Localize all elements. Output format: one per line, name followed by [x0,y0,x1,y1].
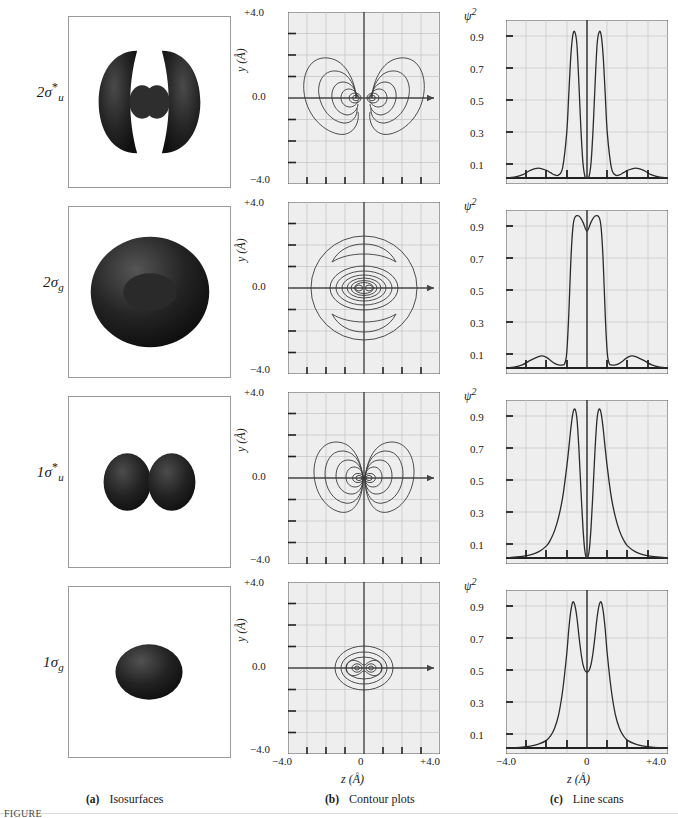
linescan-y-tick: 0.1 [470,349,484,361]
linescan-plot-1sigma-u-star [506,400,668,564]
linescan-y-tick: 0.5 [470,475,484,487]
orbital-row: 2σg y (Å) +4.0 0.0 −4.0 [0,198,678,388]
linescan-y-tick: 0.5 [470,285,484,297]
contour-x-tick-left: −4.0 [272,755,292,767]
linescan-y-axis-label: ψ2 [464,6,476,24]
linescan-panel: ψ2 0.9 0.7 0.5 0.3 0.1 [462,10,676,196]
linescan-y-tick: 0.9 [470,221,484,233]
contour-panel: y (Å) +4.0 0.0 −4.0 [236,390,446,576]
linescan-y-tick: 0.7 [470,443,484,455]
linescan-plot-2sigma-u-star [506,20,668,184]
footer-divider [0,813,678,814]
contour-panel: y (Å) +4.0 0.0 −4.0 [236,10,446,196]
linescan-y-tick: 0.3 [470,127,484,139]
isosurface-2sigma-u-star-icon [69,17,230,187]
linescan-y-tick: 0.9 [470,601,484,613]
linescan-plot-2sigma-g [506,210,668,374]
linescan-y-tick: 0.7 [470,253,484,265]
linescan-panel: ψ2 0.9 0.7 0.5 0.3 0.1 [462,390,676,576]
linescan-y-axis-label: ψ2 [464,196,476,214]
contour-y-axis-label: y (Å) [234,238,249,262]
contour-y-tick-bottom: −4.0 [250,173,270,185]
linescan-y-tick: 0.7 [470,63,484,75]
caption-contour-plots: (b)Contour plots [325,792,415,807]
orbital-row: 2σ*u y (Å) +4.0 0.0 [0,8,678,198]
isosurface-panel [68,396,231,568]
caption-isosurfaces: (a)Isosurfaces [86,792,163,807]
linescan-x-axis-label: z (Å) [567,772,590,787]
contour-panel: y (Å) +4.0 0.0 −4.0 [236,200,446,386]
linescan-x-tick-mid: 0 [584,755,590,767]
orbital-row: 1σ*u y (Å) +4.0 0.0 −4.0 [0,388,678,578]
contour-y-tick-top: +4.0 [244,576,264,588]
linescan-x-tick-left: −4.0 [496,755,516,767]
linescan-y-tick: 0.1 [470,729,484,741]
isosurface-2sigma-g-icon [69,207,230,377]
contour-y-axis-label: y (Å) [234,428,249,452]
contour-y-tick-bottom: −4.0 [250,553,270,565]
contour-plot-2sigma-g [288,202,440,374]
contour-plot-1sigma-g [288,582,440,754]
orbital-label: 1σg [6,650,64,673]
contour-y-tick-top: +4.0 [244,386,264,398]
linescan-y-tick: 0.7 [470,633,484,645]
contour-x-axis-label: z (Å) [341,772,364,787]
figure-footnote: FIGURE [4,808,42,818]
orbital-label: 1σ*u [6,460,64,483]
contour-y-axis-label: y (Å) [234,618,249,642]
linescan-y-axis-label: ψ2 [464,386,476,404]
contour-y-tick-mid: 0.0 [252,470,266,482]
isosurface-1sigma-g-icon [69,587,230,757]
contour-y-tick-bottom: −4.0 [250,363,270,375]
contour-y-tick-top: +4.0 [244,196,264,208]
contour-y-tick-mid: 0.0 [252,280,266,292]
linescan-plot-1sigma-g [506,590,668,754]
orbital-label: 2σg [6,270,64,293]
linescan-y-tick: 0.3 [470,317,484,329]
caption-line-scans: (c)Line scans [550,792,624,807]
linescan-y-tick: 0.1 [470,539,484,551]
linescan-y-axis-label: ψ2 [464,576,476,594]
linescan-y-tick: 0.5 [470,665,484,677]
orbital-label: 2σ*u [6,80,64,103]
linescan-y-tick: 0.9 [470,411,484,423]
isosurface-1sigma-u-star-icon [69,397,230,567]
contour-panel: y (Å) +4.0 0.0 −4.0 [236,580,446,766]
contour-plot-1sigma-u-star [288,392,440,564]
contour-y-tick-mid: 0.0 [252,90,266,102]
contour-x-tick-right: +4.0 [420,755,440,767]
contour-y-tick-mid: 0.0 [252,660,266,672]
linescan-panel: ψ2 0.9 0.7 0.5 0.3 0.1 [462,580,676,766]
contour-plot-2sigma-u-star [288,12,440,184]
contour-y-tick-top: +4.0 [244,6,264,18]
orbital-row: 1σg y (Å) +4.0 0.0 −4.0 [0,578,678,768]
linescan-panel: ψ2 0.9 0.7 0.5 0.3 0.1 [462,200,676,386]
linescan-y-tick: 0.9 [470,31,484,43]
contour-y-tick-bottom: −4.0 [250,743,270,755]
linescan-y-tick: 0.1 [470,159,484,171]
linescan-y-tick: 0.3 [470,697,484,709]
linescan-x-tick-right: +4.0 [646,755,666,767]
contour-y-axis-label: y (Å) [234,48,249,72]
linescan-y-tick: 0.3 [470,507,484,519]
isosurface-panel [68,586,231,758]
contour-x-tick-mid: 0 [358,755,364,767]
isosurface-panel [68,206,231,378]
linescan-y-tick: 0.5 [470,95,484,107]
isosurface-panel [68,16,231,188]
